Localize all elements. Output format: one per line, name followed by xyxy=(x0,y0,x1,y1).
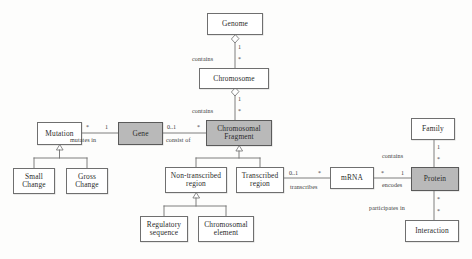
uml-diagram-canvas: GenomeChromosomeChromosomal FragmentGene… xyxy=(0,0,472,259)
class-box-label: Chromosomal Fragment xyxy=(215,125,263,141)
class-box-label: Genome xyxy=(220,20,250,28)
multiplicity-m-mrna-star-left: * xyxy=(318,170,321,176)
class-box-label: Regulatory sequence xyxy=(145,221,183,237)
edge-label-transcribes: transcribes xyxy=(290,184,318,190)
class-box-label: Small Change xyxy=(20,173,47,189)
aggregation-diamond-genome xyxy=(231,35,238,43)
class-box-label: Protein xyxy=(422,175,448,183)
multiplicity-m-chromosome-star: * xyxy=(238,56,241,62)
class-box-chromosome[interactable]: Chromosome xyxy=(199,68,269,89)
class-box-chromosomal-element[interactable]: Chromosomal element xyxy=(198,216,254,242)
class-box-label: Non-transcribed region xyxy=(169,172,223,188)
generalization-triangle-mutation xyxy=(56,145,62,150)
class-box-label: Gross Change xyxy=(73,173,100,189)
class-box-label: Chromosome xyxy=(211,75,256,83)
edge-label-participates-in: participates in xyxy=(369,205,405,211)
class-box-gross-change[interactable]: Gross Change xyxy=(66,168,108,194)
class-box-interaction[interactable]: Interaction xyxy=(405,220,459,242)
class-box-regulatory-sequence[interactable]: Regulatory sequence xyxy=(140,216,188,242)
multiplicity-m-protein-star-top: * xyxy=(437,156,440,162)
class-box-chromosomal-fragment[interactable]: Chromosomal Fragment xyxy=(206,120,272,146)
multiplicity-m-gene-0-1: 0..1 xyxy=(167,124,176,130)
multiplicity-m-genome-1: 1 xyxy=(238,44,241,50)
class-box-label: Chromosomal element xyxy=(202,221,250,237)
multiplicity-m-mutation-star: * xyxy=(86,124,89,130)
class-box-protein[interactable]: Protein xyxy=(411,167,459,191)
edge-label-encodes: encodes xyxy=(382,182,402,188)
edge-label-mutates-in: mutates in xyxy=(70,137,96,143)
multiplicity-m-mrna-star-right: * xyxy=(381,170,384,176)
multiplicity-m-protein-star-bottom: * xyxy=(437,196,440,202)
class-box-small-change[interactable]: Small Change xyxy=(13,168,55,194)
class-box-label: mRNA xyxy=(339,174,365,182)
generalization-triangle-fragment xyxy=(236,146,242,151)
edge-label-consist-of: consist of xyxy=(166,137,191,143)
multiplicity-m-gene-1: 1 xyxy=(105,124,108,130)
class-box-label: Interaction xyxy=(413,227,451,235)
edge-label-contains-family-protein: contains xyxy=(382,153,403,159)
aggregation-diamond-chromosome xyxy=(231,88,238,96)
class-box-label: Transcribed region xyxy=(240,172,281,188)
multiplicity-m-interaction-star: * xyxy=(437,208,440,214)
class-box-mrna[interactable]: mRNA xyxy=(330,167,374,189)
multiplicity-m-family-1: 1 xyxy=(437,144,440,150)
class-box-label: Gene xyxy=(130,130,150,138)
class-box-genome[interactable]: Genome xyxy=(207,13,263,35)
class-box-gene[interactable]: Gene xyxy=(118,122,163,145)
edge-label-contains-chromosome-fragment: contains xyxy=(192,108,213,114)
class-box-label: Family xyxy=(420,125,446,133)
multiplicity-m-fragment-star: * xyxy=(238,108,241,114)
multiplicity-m-protein-1: 1 xyxy=(401,170,404,176)
multiplicity-m-chromosome-1: 1 xyxy=(238,96,241,102)
class-box-non-transcribed-region[interactable]: Non-transcribed region xyxy=(165,167,227,193)
class-box-transcribed-region[interactable]: Transcribed region xyxy=(236,167,284,193)
generalization-triangle-nontranscribed xyxy=(193,193,199,198)
edge-label-contains-genome-chromosome: contains xyxy=(192,56,213,62)
multiplicity-m-transcribed-0-1: 0..1 xyxy=(289,170,298,176)
class-box-family[interactable]: Family xyxy=(411,118,455,140)
multiplicity-m-fragment-star-left: * xyxy=(197,124,200,130)
